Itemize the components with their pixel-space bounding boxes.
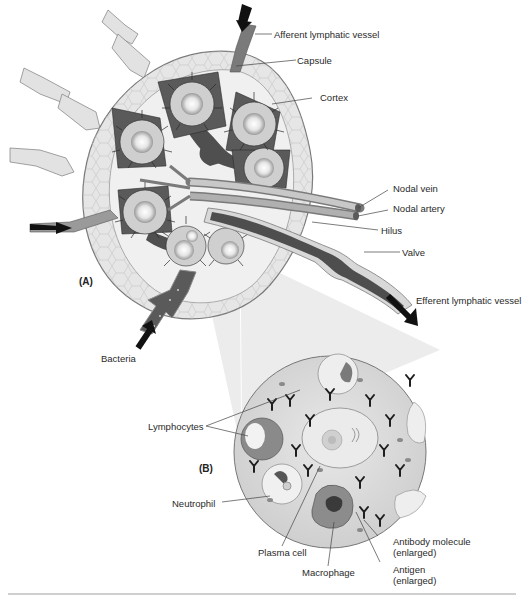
label-valve: Valve (402, 247, 425, 258)
label-efferent-lymphatic-vessel: Efferent lymphatic vessel (416, 295, 521, 306)
label-capsule: Capsule (297, 55, 332, 66)
label-antibody-enlarged: (enlarged) (393, 547, 436, 558)
label-neutrophil: Neutrophil (172, 498, 215, 509)
label-afferent-lymphatic-vessel: Afferent lymphatic vessel (274, 29, 379, 40)
label-lymphocytes: Lymphocytes (148, 421, 204, 432)
label-hilus: Hilus (381, 225, 402, 236)
label-antibody-molecule: Antibody molecule (393, 536, 471, 547)
panel-label-a: (A) (79, 276, 93, 287)
label-bacteria: Bacteria (101, 353, 136, 364)
label-antigen-enlarged: (enlarged) (393, 575, 436, 586)
follicle (208, 228, 244, 264)
inset-circle (234, 354, 426, 548)
label-antigen: Antigen (393, 564, 425, 575)
label-cortex: Cortex (320, 92, 348, 103)
label-nodal-artery: Nodal artery (393, 203, 445, 214)
label-nodal-vein: Nodal vein (393, 183, 438, 194)
label-plasma-cell: Plasma cell (258, 547, 307, 558)
panel-label-b: (B) (199, 463, 213, 474)
label-macrophage: Macrophage (302, 567, 355, 578)
follicle (118, 186, 172, 234)
bottom-rule (8, 593, 516, 595)
